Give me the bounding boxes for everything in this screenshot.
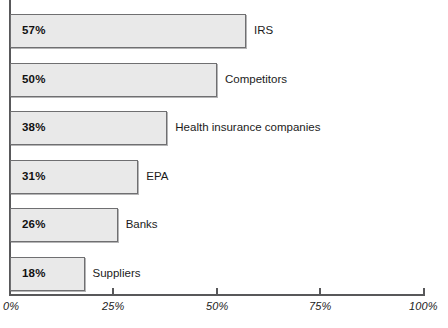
- x-axis-tick-label-4: 100%: [409, 300, 438, 312]
- bar-category-label: Competitors: [225, 73, 287, 85]
- bar-value-label: 38%: [22, 121, 46, 133]
- x-axis-tick-2: [216, 288, 218, 295]
- bar-value-label: 31%: [22, 170, 46, 182]
- bar-value-label: 26%: [22, 218, 46, 230]
- x-axis-tick-4: [423, 288, 425, 295]
- bar-category-label: EPA: [146, 170, 168, 182]
- bar-category-label: Suppliers: [93, 267, 141, 279]
- bar-category-label: IRS: [254, 24, 273, 36]
- bar-category-label: Health insurance companies: [175, 121, 320, 133]
- x-axis-tick-label-3: 75%: [309, 300, 331, 312]
- x-axis-tick-3: [319, 288, 321, 295]
- bar-category-label: Banks: [126, 218, 158, 230]
- x-axis-tick-label-0: 0%: [3, 300, 19, 312]
- x-axis-tick-1: [112, 288, 114, 295]
- bar-value-label: 50%: [22, 73, 46, 85]
- x-axis-tick-label-1: 25%: [102, 300, 124, 312]
- horizontal-bar-chart: 0% 25% 50% 75% 100% 57%IRS50%Competitors…: [0, 0, 448, 328]
- bar-value-label: 18%: [22, 267, 46, 279]
- x-axis-tick-label-2: 50%: [206, 300, 228, 312]
- bar-value-label: 57%: [22, 24, 46, 36]
